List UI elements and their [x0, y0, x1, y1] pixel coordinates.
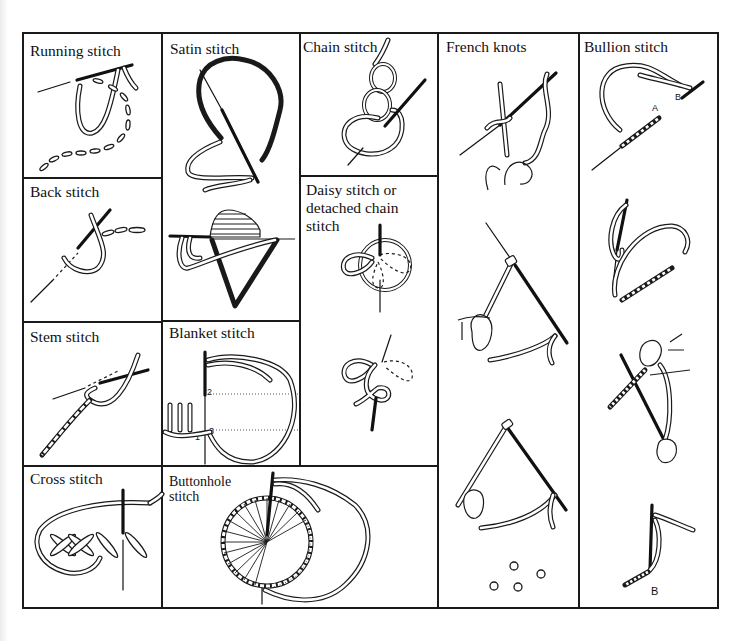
french-knots-illustration-3 — [458, 419, 566, 591]
french-knots-illustration-2 — [458, 223, 567, 363]
chain-stitch-illustration — [344, 40, 425, 165]
blanket-stitch-illustration — [165, 352, 298, 464]
bullion-stitch-illustration-3 — [610, 334, 690, 463]
cross-stitch-illustration — [37, 490, 162, 590]
stem-stitch-illustration — [42, 355, 148, 455]
daisy-stitch-illustration-top — [343, 225, 410, 312]
bullion-stitch-illustration-2 — [611, 200, 688, 300]
french-knots-illustration-1 — [460, 73, 556, 190]
stitch-illustrations: .thr { fill: none; stroke: #1a1a1a; stro… — [0, 0, 735, 641]
daisy-stitch-illustration-bottom — [344, 335, 412, 430]
satin-stitch-illustration-top — [188, 58, 281, 190]
bullion-stitch-illustration-1 — [592, 65, 703, 170]
back-stitch-illustration — [31, 210, 145, 302]
running-stitch-illustration — [38, 65, 136, 172]
buttonhole-stitch-illustration — [223, 473, 368, 604]
bullion-stitch-illustration-4 — [625, 505, 693, 585]
embroidery-stitch-chart: Running stitch Satin stitch Chain stitch… — [0, 0, 735, 641]
satin-stitch-illustration-bottom — [170, 210, 295, 306]
